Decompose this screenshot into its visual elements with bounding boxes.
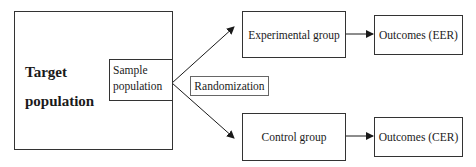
sample-population-box: Sample population — [109, 59, 173, 101]
outcomes-cer-label: Outcomes (CER) — [379, 131, 459, 143]
randomization-label: Randomization — [194, 80, 264, 92]
randomization-box: Randomization — [190, 76, 269, 96]
outcomes-eer-box: Outcomes (EER) — [374, 15, 463, 55]
arrow-to-experimental — [172, 27, 234, 83]
outcomes-cer-box: Outcomes (CER) — [374, 117, 463, 157]
sample-population-label-line1: Sample — [113, 64, 148, 76]
experimental-group-box: Experimental group — [242, 11, 346, 58]
control-group-box: Control group — [242, 113, 346, 161]
outcomes-eer-label: Outcomes (EER) — [379, 29, 458, 41]
experimental-group-label: Experimental group — [248, 29, 340, 41]
target-population-label-line2: population — [25, 93, 94, 110]
target-population-label-line1: Target — [25, 64, 67, 81]
sample-population-label-line2: population — [113, 80, 162, 92]
control-group-label: Control group — [262, 131, 327, 143]
